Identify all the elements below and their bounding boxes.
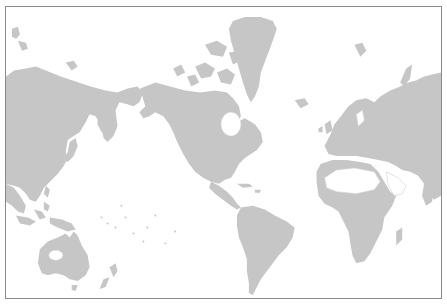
pacific-islands	[101, 205, 177, 245]
region-arctic-archipelago	[173, 41, 241, 87]
region-madagascar	[396, 227, 402, 245]
region-severnaya-zemlya	[12, 27, 78, 71]
region-asia	[6, 67, 143, 202]
region-british-isles	[319, 120, 333, 134]
region-north-america	[139, 82, 262, 183]
region-australia	[38, 231, 90, 281]
region-india	[422, 184, 434, 206]
region-svalbard	[354, 43, 366, 57]
region-tasmania	[72, 285, 78, 291]
region-south-america	[237, 206, 295, 295]
region-caribbean	[237, 184, 261, 193]
lake-eyre-area	[49, 250, 63, 260]
region-new-zealand	[100, 263, 118, 289]
world-map	[6, 7, 441, 298]
hudson-bay	[221, 112, 241, 136]
region-iceland	[295, 98, 309, 108]
world-map-frame	[5, 6, 442, 299]
region-central-america	[209, 182, 241, 210]
